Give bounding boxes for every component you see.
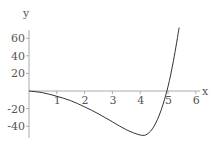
x-ticks: 123456: [54, 91, 200, 107]
y-tick-label: -20: [7, 103, 25, 116]
y-tick-label: -40: [7, 120, 25, 133]
x-axis-label: x: [202, 85, 209, 98]
x-tick-label: 2: [82, 94, 89, 107]
y-ticks: 604020-20-40: [7, 32, 29, 133]
y-tick-label: 60: [11, 32, 25, 45]
chart: 123456 604020-20-40 x y: [0, 0, 213, 144]
y-tick-label: 40: [11, 50, 25, 63]
y-tick-label: 20: [11, 67, 25, 80]
x-tick-label: 6: [193, 94, 200, 107]
y-axis-label: y: [22, 7, 30, 20]
data-curve: [29, 28, 179, 136]
x-tick-label: 4: [137, 94, 144, 107]
x-tick-label: 3: [109, 94, 116, 107]
